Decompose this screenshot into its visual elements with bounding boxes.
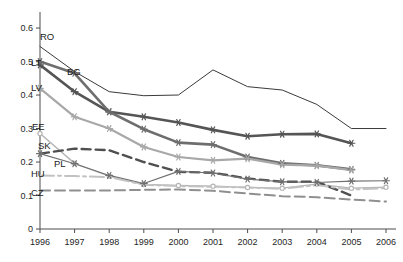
- series-line-lt: [40, 65, 351, 143]
- series-label-lt: LT: [31, 57, 42, 68]
- series-label-cz: CZ: [31, 187, 44, 198]
- marker-lt: [140, 114, 147, 120]
- series-label-bg: BG: [67, 66, 81, 77]
- series-layer: [40, 46, 386, 201]
- marker-pl: [279, 179, 286, 185]
- series-label-lv: LV: [31, 82, 43, 93]
- x-tick-label: 2001: [203, 237, 223, 247]
- marker-pl: [210, 170, 217, 176]
- marker-lt: [210, 127, 217, 133]
- x-tick-label: 2000: [168, 237, 188, 247]
- series-line-cz: [40, 189, 386, 201]
- y-tick-label: 0.6: [20, 23, 33, 33]
- x-tick-label: 2005: [341, 237, 361, 247]
- marker-lt: [348, 140, 355, 146]
- x-tick-label: 2002: [238, 237, 258, 247]
- x-tick-label: 2006: [376, 237, 396, 247]
- marker-ee: [384, 185, 388, 189]
- line-chart: 00.10.20.30.40.50.6 19961997199819992000…: [0, 0, 403, 262]
- series-label-sk: SK: [38, 140, 51, 151]
- series-label-pl: PL: [54, 158, 66, 169]
- series-label-hu: HU: [31, 168, 45, 179]
- series-line-bg: [40, 62, 351, 170]
- x-tick-label: 1999: [134, 237, 154, 247]
- x-axis: 1996199719981999200020012002200320042005…: [30, 229, 396, 247]
- x-tick-label: 1998: [99, 237, 119, 247]
- y-tick-label: 0.2: [20, 157, 33, 167]
- series-line-ro: [40, 46, 386, 128]
- marker-lt: [175, 120, 182, 126]
- x-tick-label: 2004: [307, 237, 327, 247]
- marker-lt: [244, 133, 251, 139]
- marker-lt: [279, 131, 286, 137]
- marker-ee: [211, 184, 215, 188]
- series-label-ro: RO: [40, 31, 54, 42]
- marker-ee: [349, 186, 353, 190]
- marker-pl: [244, 176, 251, 182]
- series-line-lv: [40, 88, 351, 170]
- x-tick-label: 1997: [65, 237, 85, 247]
- marker-pl: [175, 168, 182, 174]
- marker-lv: [175, 154, 182, 160]
- y-tick-label: 0: [28, 224, 33, 234]
- marker-pl: [348, 178, 355, 184]
- series-label-ee: EE: [32, 121, 45, 132]
- marker-ee: [280, 186, 284, 190]
- marker-ee: [38, 131, 42, 135]
- markers-layer: [37, 59, 390, 191]
- marker-pl: [383, 178, 390, 184]
- chart-canvas: 00.10.20.30.40.50.6 19961997199819992000…: [0, 0, 403, 262]
- marker-lv: [210, 157, 217, 163]
- marker-lt: [313, 131, 320, 137]
- marker-ee: [176, 183, 180, 187]
- x-tick-label: 1996: [30, 237, 50, 247]
- marker-ee: [246, 185, 250, 189]
- marker-lv: [313, 163, 320, 169]
- x-tick-label: 2003: [272, 237, 292, 247]
